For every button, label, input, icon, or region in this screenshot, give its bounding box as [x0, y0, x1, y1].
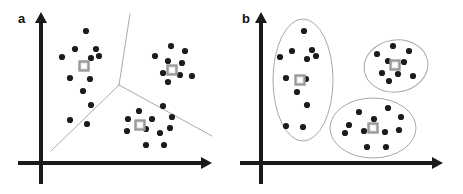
data-point: [309, 47, 315, 53]
data-point: [167, 125, 173, 131]
data-point: [374, 51, 380, 57]
data-point: [383, 144, 389, 150]
data-point: [83, 28, 89, 34]
data-point: [160, 70, 166, 76]
data-point: [361, 128, 367, 134]
data-point: [165, 58, 171, 64]
data-point: [356, 109, 362, 115]
centroid-marker-inner: [82, 64, 86, 68]
data-point: [84, 121, 90, 127]
data-point: [300, 124, 306, 130]
data-point: [177, 72, 183, 78]
data-point: [313, 53, 319, 59]
data-point: [289, 48, 295, 54]
x-axis-arrowhead-icon: [201, 157, 212, 169]
voronoi-boundary-lower-right: [119, 85, 212, 136]
data-point: [346, 122, 352, 128]
data-point: [124, 128, 130, 134]
data-point: [182, 48, 188, 54]
data-point: [88, 55, 94, 61]
data-point: [149, 116, 155, 122]
data-point: [385, 105, 391, 111]
panel-a-plot: [0, 0, 232, 194]
data-point: [396, 127, 402, 133]
data-point: [152, 53, 158, 59]
panel-a: a: [0, 0, 232, 194]
data-point: [161, 142, 167, 148]
data-point: [169, 114, 175, 120]
data-point: [87, 76, 93, 82]
data-point: [294, 89, 300, 95]
data-point: [160, 103, 166, 109]
centroid-marker-inner: [371, 126, 375, 130]
data-point: [364, 144, 370, 150]
data-point: [395, 71, 401, 77]
data-point: [301, 28, 307, 34]
data-point: [277, 54, 283, 60]
centroid-marker-inner: [138, 123, 142, 127]
x-axis-arrowhead-icon: [432, 157, 443, 169]
data-point: [410, 73, 416, 79]
data-point: [283, 75, 289, 81]
voronoi-boundary-upper: [119, 14, 130, 85]
clustering-figure: a b: [0, 0, 463, 194]
panel-b-plot: [232, 0, 463, 194]
data-point: [342, 130, 348, 136]
data-point: [283, 123, 289, 129]
data-point: [401, 59, 407, 65]
data-point: [304, 102, 310, 108]
data-point: [398, 114, 404, 120]
data-point: [143, 142, 149, 148]
data-point: [168, 43, 174, 49]
data-point: [179, 60, 185, 66]
data-point: [379, 70, 385, 76]
voronoi-boundary-lower-left: [51, 85, 119, 151]
data-point: [93, 46, 99, 52]
data-point: [59, 54, 65, 60]
data-point: [157, 130, 163, 136]
data-point: [189, 73, 195, 79]
data-point: [371, 116, 377, 122]
data-point: [165, 79, 171, 85]
data-point: [406, 48, 412, 54]
data-point: [125, 116, 131, 122]
data-point: [136, 108, 142, 114]
data-point: [382, 129, 388, 135]
data-point: [88, 102, 94, 108]
data-point: [72, 46, 78, 52]
centroid-marker-inner: [393, 63, 397, 67]
data-point: [80, 88, 86, 94]
data-point: [304, 56, 310, 62]
y-axis-arrowhead-icon: [255, 12, 267, 23]
panel-b: b: [232, 0, 463, 194]
data-point: [386, 78, 392, 84]
data-point: [67, 75, 73, 81]
data-point: [67, 117, 73, 123]
data-point: [96, 53, 102, 59]
centroid-marker-inner: [298, 78, 302, 82]
data-point: [390, 43, 396, 49]
y-axis-arrowhead-icon: [35, 12, 47, 23]
centroid-marker-inner: [170, 68, 174, 72]
